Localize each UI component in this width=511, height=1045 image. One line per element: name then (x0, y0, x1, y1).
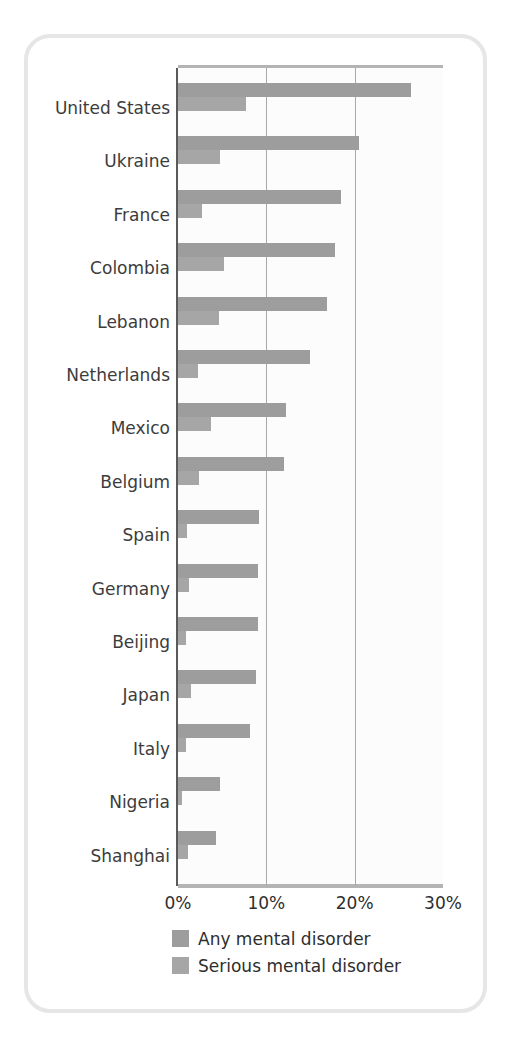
bar-nigeria-any (178, 777, 220, 791)
chart-row: Shanghai (0, 830, 511, 882)
category-label-italy: Italy (10, 729, 170, 769)
x-axis-line (178, 884, 443, 888)
bar-germany-any (178, 564, 258, 578)
bar-chart-figure: United StatesUkraineFranceColombiaLebano… (0, 0, 511, 1045)
chart-legend: Any mental disorder Serious mental disor… (172, 925, 401, 979)
bar-netherlands-any (178, 350, 310, 364)
bar-spain-any (178, 510, 259, 524)
bar-belgium-serious (178, 471, 199, 485)
category-label-lebanon: Lebanon (10, 302, 170, 342)
bar-shanghai-serious (178, 845, 188, 859)
category-label-germany: Germany (10, 569, 170, 609)
bar-ukraine-serious (178, 150, 220, 164)
category-label-shanghai: Shanghai (10, 836, 170, 876)
chart-row: Germany (0, 563, 511, 615)
chart-row: Italy (0, 723, 511, 775)
category-label-ukraine: Ukraine (10, 141, 170, 181)
chart-row: Ukraine (0, 135, 511, 187)
bar-lebanon-serious (178, 311, 219, 325)
chart-row: France (0, 189, 511, 241)
chart-row: Nigeria (0, 776, 511, 828)
category-label-beijing: Beijing (10, 622, 170, 662)
legend-item-any-mental-disorder[interactable]: Any mental disorder (172, 925, 401, 952)
legend-swatch-serious-mental-disorder (172, 957, 189, 974)
bar-france-any (178, 190, 341, 204)
chart-row: Belgium (0, 456, 511, 508)
bar-nigeria-serious (178, 791, 182, 805)
bar-mexico-any (178, 403, 286, 417)
legend-label-serious-mental-disorder: Serious mental disorder (198, 956, 401, 976)
bar-belgium-any (178, 457, 284, 471)
bar-italy-any (178, 724, 250, 738)
bar-united-states-any (178, 83, 411, 97)
bar-beijing-any (178, 617, 258, 631)
bar-colombia-serious (178, 257, 224, 271)
category-label-mexico: Mexico (10, 408, 170, 448)
bar-japan-any (178, 670, 256, 684)
chart-row: Lebanon (0, 296, 511, 348)
bar-colombia-any (178, 243, 335, 257)
x-tick-label-10pct: 10% (231, 893, 301, 913)
bar-beijing-serious (178, 631, 186, 645)
legend-item-serious-mental-disorder[interactable]: Serious mental disorder (172, 952, 401, 979)
bar-japan-serious (178, 684, 191, 698)
legend-swatch-any-mental-disorder (172, 930, 189, 947)
category-label-united-states: United States (10, 88, 170, 128)
bar-netherlands-serious (178, 364, 198, 378)
bar-spain-serious (178, 524, 187, 538)
bar-shanghai-any (178, 831, 216, 845)
x-tick-label-0pct: 0% (143, 893, 213, 913)
category-label-spain: Spain (10, 515, 170, 555)
chart-row: Spain (0, 509, 511, 561)
bar-france-serious (178, 204, 202, 218)
chart-row: Japan (0, 669, 511, 721)
chart-row: Beijing (0, 616, 511, 668)
bar-italy-serious (178, 738, 186, 752)
category-label-belgium: Belgium (10, 462, 170, 502)
legend-label-any-mental-disorder: Any mental disorder (198, 929, 371, 949)
chart-row: Colombia (0, 242, 511, 294)
category-label-japan: Japan (10, 675, 170, 715)
chart-row: Mexico (0, 402, 511, 454)
category-label-nigeria: Nigeria (10, 782, 170, 822)
bar-united-states-serious (178, 97, 246, 111)
category-label-netherlands: Netherlands (10, 355, 170, 395)
bar-mexico-serious (178, 417, 211, 431)
category-label-colombia: Colombia (10, 248, 170, 288)
x-tick-label-20pct: 20% (320, 893, 390, 913)
category-label-france: France (10, 195, 170, 235)
bar-lebanon-any (178, 297, 327, 311)
bar-germany-serious (178, 578, 189, 592)
x-tick-label-30pct: 30% (408, 893, 478, 913)
bar-ukraine-any (178, 136, 359, 150)
chart-row: Netherlands (0, 349, 511, 401)
chart-row: United States (0, 82, 511, 134)
